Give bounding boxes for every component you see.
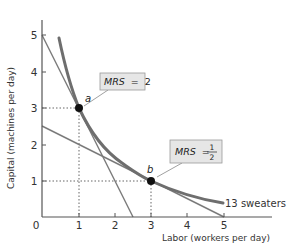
point-b-marker [147,177,155,185]
callout-b-text: MRS = [175,146,210,157]
callout-b-numerator: 1 [210,143,215,152]
y-tick-label: 5 [31,29,38,41]
x-tick-labels: 0 1 2 3 4 5 [33,219,228,231]
x-tick-label: 4 [184,219,191,231]
callout-a-value: 2 [145,76,151,87]
x-tick-label: 2 [112,219,119,231]
y-tick-label: 2 [31,139,38,151]
y-tick-labels: 5 4 3 2 1 [31,29,38,187]
point-b-label: b [147,164,153,175]
isoquant-label: 13 sweaters [225,198,286,209]
y-axis-label: Capital (machines per day) [6,67,16,189]
x-tick-label: 5 [221,219,228,231]
callout-a-prefix: MRS [104,76,125,87]
x-tick-label: 1 [76,219,83,231]
x-axis-label: Labor (workers per day) [162,233,270,243]
callout-b-denominator: 2 [210,153,215,162]
point-a-marker [75,104,83,112]
callout-b-prefix: MRS [175,146,196,157]
y-tick-label: 4 [31,66,38,78]
y-tick-label: 3 [31,102,38,114]
y-tick-label: 1 [31,175,38,187]
origin-label: 0 [33,219,40,231]
callout-mrs-a: MRS = 2 [100,73,151,90]
x-tick-label: 3 [148,219,155,231]
isoquant-curve [59,38,223,203]
axes [42,20,272,217]
callout-mrs-b: MRS = 1 2 [170,140,222,163]
callout-a-eq: = [131,76,139,87]
isoquant-chart: 5 4 3 2 1 0 1 2 3 4 5 Labor (workers per… [0,0,291,250]
callout-connector-b [157,163,182,177]
point-a-label: a [85,93,91,104]
guide-lines [42,108,151,217]
